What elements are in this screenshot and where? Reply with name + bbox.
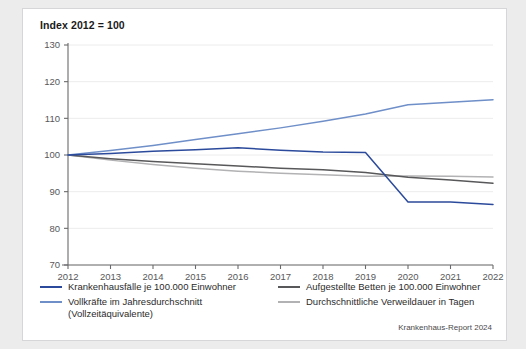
series-line	[68, 100, 493, 155]
y-tick-label: 120	[44, 76, 60, 87]
y-tick-label: 80	[49, 223, 60, 234]
y-tick-label: 90	[49, 186, 60, 197]
series-line	[68, 155, 493, 177]
legend-item[interactable]: Vollkräfte im Jahresdurchschnitt(Vollzei…	[40, 296, 278, 320]
y-tick-label: 100	[44, 149, 60, 160]
legend-color-swatch	[278, 286, 300, 288]
y-tick-label: 130	[44, 39, 60, 50]
source-note: Krankenhaus-Report 2024	[398, 323, 492, 332]
chart-card: Index 2012 = 100 70809010011012013020122…	[22, 8, 507, 341]
series-line	[68, 155, 493, 183]
legend-item-label: Vollkräfte im Jahresdurchschnitt(Vollzei…	[68, 296, 202, 320]
y-tick-label: 70	[49, 259, 60, 270]
legend-color-swatch	[40, 301, 62, 303]
legend-item[interactable]: Krankenhausfälle je 100.000 Einwohner	[40, 281, 278, 293]
line-chart: 7080901001101201302012201320142015201620…	[23, 9, 508, 289]
legend-item-label: Durchschnittliche Verweildauer in Tagen	[306, 296, 474, 308]
legend-column-left: Krankenhausfälle je 100.000 EinwohnerVol…	[40, 281, 278, 320]
legend-item-label: Krankenhausfälle je 100.000 Einwohner	[68, 281, 236, 293]
legend-item[interactable]: Durchschnittliche Verweildauer in Tagen	[278, 296, 492, 308]
legend-column-right: Aufgestellte Betten je 100.000 Einwohner…	[278, 281, 492, 320]
legend-color-swatch	[278, 301, 300, 303]
legend-item[interactable]: Aufgestellte Betten je 100.000 Einwohner	[278, 281, 492, 293]
legend-item-label: Aufgestellte Betten je 100.000 Einwohner	[306, 281, 480, 293]
chart-legend: Krankenhausfälle je 100.000 EinwohnerVol…	[40, 281, 492, 320]
y-tick-label: 110	[45, 113, 60, 124]
legend-color-swatch	[40, 286, 62, 288]
